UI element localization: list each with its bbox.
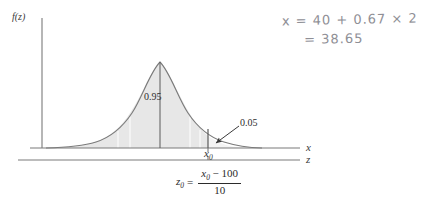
handwriting-line-2: = 38.65	[304, 30, 418, 47]
tail-annotation-arrow	[216, 126, 239, 143]
x-axis-label: x	[306, 142, 311, 153]
formula-denominator: 10	[211, 184, 228, 197]
formula-fraction: x0 − 100 10	[198, 168, 241, 197]
formula-lhs-sub: 0	[180, 181, 184, 190]
center-area-label: 0.95	[144, 92, 162, 102]
standardization-formula: z0 = x0 − 100 10	[176, 168, 241, 197]
x0-tick-label: x0	[204, 148, 213, 162]
figure-page: f(z) 0.95 0.05 x z x0 z0 = x0 − 100 10 x…	[0, 0, 436, 201]
y-axis-label: f(z)	[12, 12, 25, 22]
handwritten-annotation: x = 40 + 0.67 × 2 = 38.65	[282, 11, 419, 48]
formula-equals: =	[187, 176, 193, 188]
handwriting-line-1: x = 40 + 0.67 × 2	[282, 11, 418, 29]
formula-numerator: x0 − 100	[198, 168, 241, 183]
x0-tick-label-sub: 0	[209, 153, 213, 162]
tail-area-label: 0.05	[240, 118, 258, 128]
formula-numerator-rest: − 100	[213, 167, 238, 179]
z-axis-label: z	[306, 154, 310, 165]
formula-lhs: z0	[176, 175, 184, 190]
formula-numerator-sub: 0	[206, 173, 210, 182]
